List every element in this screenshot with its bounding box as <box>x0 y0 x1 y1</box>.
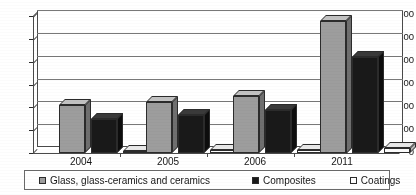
bar-side-face <box>204 109 210 153</box>
bar-front-face <box>233 96 259 153</box>
bar-glass-2006 <box>233 96 259 153</box>
bar-glass-2005 <box>146 102 172 153</box>
bar-front-face <box>91 119 117 153</box>
bar-front-face <box>146 102 172 153</box>
x-tick-label-2005: 2005 <box>131 156 205 167</box>
y-tick-400 <box>29 62 33 63</box>
bar-front-face <box>59 105 85 153</box>
bar-glass-2004 <box>59 105 85 153</box>
x-tick-2005 <box>207 153 208 157</box>
bar-composites-2011 <box>352 57 378 153</box>
bar-front-face <box>352 57 378 153</box>
bar-front-face <box>384 148 410 153</box>
legend-label-coatings: Coatings <box>361 175 400 186</box>
y-tick-0 <box>29 153 33 154</box>
x-tick-label-2011: 2011 <box>305 156 379 167</box>
bar-side-face <box>117 113 123 153</box>
bar-front-face <box>265 110 291 153</box>
y-tick-100 <box>29 130 33 131</box>
legend-label-composites: Composites <box>263 175 316 186</box>
x-tick-2006 <box>294 153 295 157</box>
bar-side-face <box>378 51 384 153</box>
bar-front-face <box>178 115 204 153</box>
bar-front-face <box>320 21 346 154</box>
legend-item-composites: Composites <box>252 175 316 186</box>
x-tick-2004 <box>120 153 121 157</box>
y-tick-600 <box>29 16 33 17</box>
x-tick-label-2004: 2004 <box>44 156 118 167</box>
legend-item-coatings: Coatings <box>350 175 400 186</box>
plot-area <box>33 10 404 153</box>
legend-label-glass: Glass, glass-ceramics and ceramics <box>50 175 210 186</box>
legend-swatch-coatings-icon <box>350 177 357 184</box>
chart-legend: Glass, glass-ceramics and ceramics Compo… <box>24 170 390 190</box>
bar-composites-2004 <box>91 119 117 153</box>
legend-swatch-composites-icon <box>252 177 259 184</box>
floor-baseline <box>33 153 399 154</box>
gridline-600 <box>37 10 403 11</box>
legend-item-glass: Glass, glass-ceramics and ceramics <box>39 175 210 186</box>
bar-composites-2005 <box>178 115 204 153</box>
x-tick-label-2006: 2006 <box>218 156 292 167</box>
legend-swatch-glass-icon <box>39 177 46 184</box>
bar-side-face <box>291 104 297 153</box>
y-tick-200 <box>29 107 33 108</box>
bar-composites-2006 <box>265 110 291 153</box>
y-tick-500 <box>29 39 33 40</box>
bar-glass-2011 <box>320 21 346 154</box>
y-tick-300 <box>29 85 33 86</box>
bar-coatings-2011 <box>384 148 410 153</box>
